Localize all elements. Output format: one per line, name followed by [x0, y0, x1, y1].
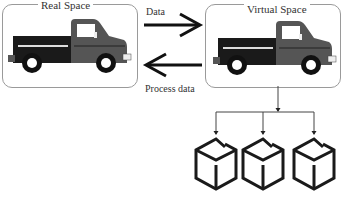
cube-icon	[292, 135, 338, 191]
tree-connector	[0, 0, 341, 207]
cube-icon	[194, 135, 240, 191]
cube-icon	[241, 135, 287, 191]
